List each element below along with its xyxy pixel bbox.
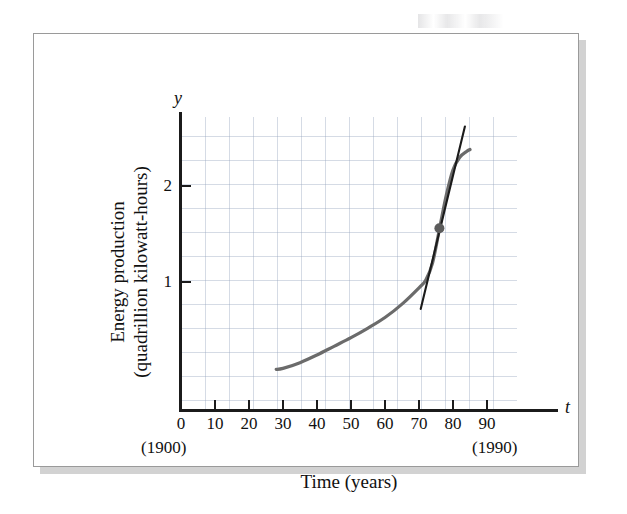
tangency-point-marker xyxy=(434,223,444,233)
tangent-line xyxy=(421,126,465,308)
figure-root: 0 10 20 30 40 50 60 70 80 90 2 1 (1900) … xyxy=(0,0,627,514)
figure-plate: 0 10 20 30 40 50 60 70 80 90 2 1 (1900) … xyxy=(33,33,579,467)
energy-production-curve xyxy=(276,150,470,370)
x-axis-title: Time (years) xyxy=(181,471,517,493)
scan-artifact xyxy=(418,14,504,28)
chart-curves xyxy=(34,34,580,468)
